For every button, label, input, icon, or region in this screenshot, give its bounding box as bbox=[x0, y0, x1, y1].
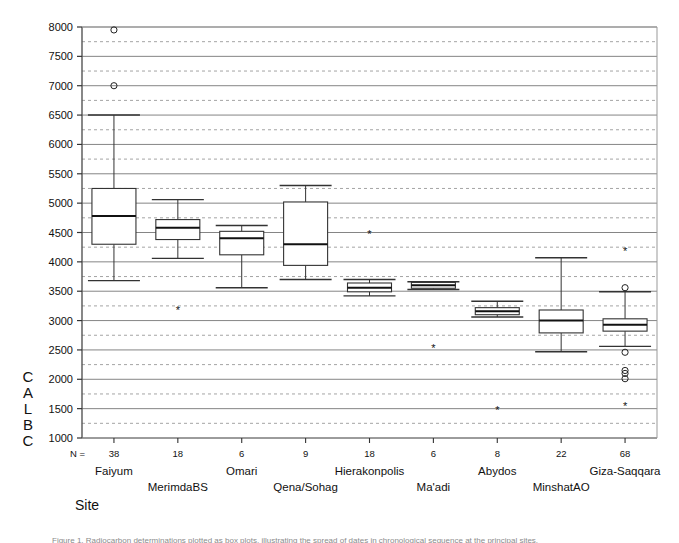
y-axis-title-char: L bbox=[24, 400, 32, 417]
extreme-asterisk: * bbox=[623, 400, 628, 412]
y-axis-title-char: A bbox=[23, 384, 33, 401]
y-tick-label: 7500 bbox=[49, 50, 73, 62]
y-axis-title-char: C bbox=[23, 432, 34, 449]
category-label-ma-adi: Ma'adi bbox=[417, 481, 451, 493]
extreme-asterisk: * bbox=[176, 304, 181, 316]
box-iqr bbox=[284, 202, 328, 265]
y-axis-title: CALBC bbox=[23, 368, 34, 449]
n-value-label: 9 bbox=[303, 448, 308, 459]
category-label-qena-sohag: Qena/Sohag bbox=[273, 481, 338, 493]
category-label-omari: Omari bbox=[226, 465, 257, 477]
y-tick-label: 8000 bbox=[49, 21, 73, 33]
box-iqr bbox=[220, 231, 264, 254]
extreme-asterisk: * bbox=[495, 404, 500, 416]
y-tick-label: 5500 bbox=[49, 168, 73, 180]
y-axis-tick-labels: 1000150020002500300035004000450050005500… bbox=[49, 21, 73, 444]
y-tick-label: 6000 bbox=[49, 138, 73, 150]
boxplot-ma-adi: * bbox=[407, 282, 459, 354]
extreme-asterisk: * bbox=[623, 245, 628, 257]
figure-caption-fragment: Figure 1. Radiocarbon determinations plo… bbox=[52, 536, 652, 543]
box-iqr bbox=[156, 220, 200, 240]
y-axis-title-char: C bbox=[23, 368, 34, 385]
figure-canvas: 1000150020002500300035004000450050005500… bbox=[0, 0, 679, 543]
boxplot-omari bbox=[216, 225, 268, 287]
n-value-label: 18 bbox=[364, 448, 375, 459]
boxplot-chart: 1000150020002500300035004000450050005500… bbox=[0, 0, 679, 543]
y-tick-label: 7000 bbox=[49, 80, 73, 92]
x-axis-ticks bbox=[114, 438, 625, 443]
n-row: N =38186918682268 bbox=[70, 448, 630, 459]
y-axis-ticks bbox=[77, 27, 82, 438]
y-tick-label: 4000 bbox=[49, 256, 73, 268]
y-tick-label: 1000 bbox=[49, 432, 73, 444]
y-tick-label: 2500 bbox=[49, 344, 73, 356]
boxplot-minshatao bbox=[535, 258, 587, 352]
extreme-asterisk: * bbox=[367, 228, 372, 240]
x-axis-title: Site bbox=[75, 497, 99, 513]
boxplot-faiyum bbox=[88, 27, 140, 281]
x-axis-title-text: Site bbox=[75, 497, 99, 513]
y-tick-label: 3500 bbox=[49, 285, 73, 297]
n-value-label: 6 bbox=[239, 448, 244, 459]
boxplot-merimdabs: * bbox=[152, 200, 204, 316]
y-tick-label: 2000 bbox=[49, 373, 73, 385]
n-prefix-label: N = bbox=[70, 448, 86, 459]
category-label-minshatao: MinshatAO bbox=[533, 481, 590, 493]
y-tick-label: 6500 bbox=[49, 109, 73, 121]
y-tick-label: 4500 bbox=[49, 227, 73, 239]
n-value-label: 38 bbox=[109, 448, 120, 459]
n-value-label: 6 bbox=[431, 448, 436, 459]
n-value-label: 8 bbox=[495, 448, 500, 459]
boxplot-giza-saqqara: ** bbox=[599, 245, 651, 412]
y-tick-label: 1500 bbox=[49, 403, 73, 415]
category-label-giza-saqqara: Giza-Saqqara bbox=[590, 465, 662, 477]
y-axis-title-char: B bbox=[23, 416, 33, 433]
box-series: ****** bbox=[88, 27, 651, 416]
category-label-faiyum: Faiyum bbox=[95, 465, 133, 477]
y-tick-label: 5000 bbox=[49, 197, 73, 209]
category-label-merimdabs: MerimdaBS bbox=[148, 481, 208, 493]
category-label-hierakonpolis: Hierakonpolis bbox=[335, 465, 405, 477]
category-label-abydos: Abydos bbox=[478, 465, 517, 477]
n-value-label: 22 bbox=[556, 448, 567, 459]
boxplot-qena-sohag bbox=[280, 186, 332, 280]
extreme-asterisk: * bbox=[431, 342, 436, 354]
boxplot-abydos: * bbox=[471, 301, 523, 416]
outlier-circle bbox=[622, 285, 628, 291]
outlier-circle bbox=[111, 27, 117, 33]
n-value-label: 68 bbox=[620, 448, 631, 459]
y-tick-label: 3000 bbox=[49, 315, 73, 327]
category-labels: FaiyumMerimdaBSOmariQena/SohagHierakonpo… bbox=[95, 465, 661, 493]
n-value-label: 18 bbox=[173, 448, 184, 459]
